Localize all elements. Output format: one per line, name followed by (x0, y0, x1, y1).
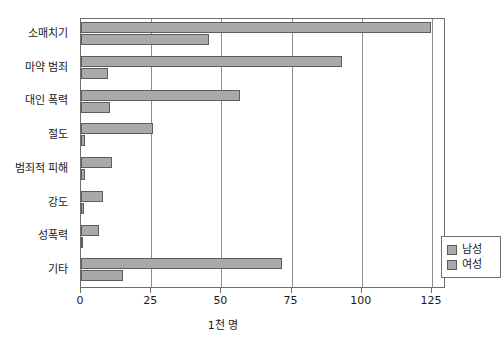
legend-swatch-icon (447, 260, 457, 270)
tick-mark (80, 288, 81, 293)
bar-female (81, 34, 209, 45)
x-axis-tick-label: 125 (420, 294, 441, 307)
x-axis-tick-label: 75 (284, 294, 298, 307)
y-axis-label: 강도 (0, 197, 74, 209)
x-axis-title-text: 1천 명 (208, 319, 239, 332)
y-axis-label: 대인 폭력 (0, 95, 74, 107)
bar-male (81, 258, 282, 269)
legend-swatch-icon (447, 245, 457, 255)
tick-mark (220, 288, 221, 293)
bar-group (81, 157, 444, 185)
legend-label-male: 남성 (462, 244, 482, 255)
bar-group (81, 191, 444, 219)
legend-item-male: 남성 (447, 242, 494, 257)
bar-female (81, 237, 83, 248)
y-axis-label: 마약 범죄 (0, 62, 74, 74)
bar-male (81, 157, 112, 168)
y-axis-labels: 소매치기마약 범죄대인 폭력절도범죄적 피해강도성폭력기타 (0, 18, 74, 288)
bar-female (81, 135, 85, 146)
legend-label-female: 여성 (462, 259, 482, 270)
x-axis-tick-label: 100 (350, 294, 371, 307)
bar-female (81, 203, 84, 214)
tick-mark (361, 288, 362, 293)
x-axis-tick-label: 25 (143, 294, 157, 307)
bar-group (81, 90, 444, 118)
bar-female (81, 270, 123, 281)
tick-mark (291, 288, 292, 293)
tick-mark (431, 288, 432, 293)
bar-female (81, 169, 85, 180)
bar-male (81, 22, 431, 33)
x-axis-tick-label: 0 (77, 294, 84, 307)
bar-male (81, 191, 103, 202)
legend-item-female: 여성 (447, 257, 494, 272)
x-axis-tick-label: 50 (213, 294, 227, 307)
x-axis-tick-labels: 0255075100125 (0, 294, 488, 310)
bar-group (81, 225, 444, 253)
bar-male (81, 90, 240, 101)
y-axis-label: 기타 (0, 264, 74, 276)
chart-legend: 남성 여성 (441, 236, 501, 278)
bar-group (81, 123, 444, 151)
x-axis-title: 1천 명 (0, 316, 488, 332)
bars-layer (81, 19, 444, 287)
y-axis-label: 소매치기 (0, 28, 74, 40)
y-axis-label: 성폭력 (0, 230, 74, 242)
bar-male (81, 123, 153, 134)
plot-area: 남성 여성 (80, 18, 445, 288)
y-axis-label: 범죄적 피해 (0, 163, 74, 175)
bar-group (81, 22, 444, 50)
bar-male (81, 56, 342, 67)
bar-group (81, 56, 444, 84)
bar-male (81, 225, 99, 236)
bar-female (81, 68, 108, 79)
tick-mark (150, 288, 151, 293)
bar-group (81, 258, 444, 286)
y-axis-label: 절도 (0, 129, 74, 141)
bar-female (81, 102, 110, 113)
